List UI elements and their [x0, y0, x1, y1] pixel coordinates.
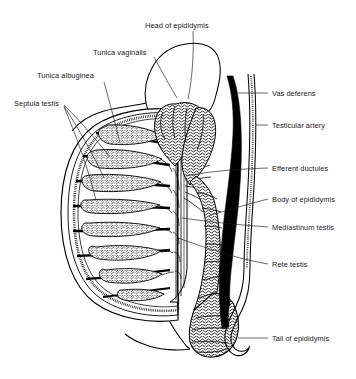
label-head-of-epididymis: Head of epididymis	[145, 21, 209, 30]
label-tunica-vaginalis: Tunica vaginalis	[93, 48, 147, 57]
label-body-of-epididymis: Body of epididymis	[272, 195, 335, 204]
label-mediastinum-testis: Mediastinum testis	[272, 223, 334, 232]
label-vas-deferens: Vas deferens	[272, 89, 316, 98]
label-rete-testis: Rete testis	[272, 260, 307, 269]
anatomy-illustration	[0, 0, 356, 379]
label-tunica-albuginea: Tunica albuginea	[37, 71, 94, 80]
label-septula-testis: Septula testis	[14, 99, 59, 108]
label-testicular-artery: Testicular artery	[272, 121, 325, 130]
label-efferent-ductules: Efferent ductules	[272, 164, 328, 173]
vas-deferens	[219, 76, 241, 328]
anatomy-diagram: Head of epididymis Tunica vaginalis Tuni…	[0, 0, 356, 379]
label-tail-of-epididymis: Tail of epididymis	[272, 334, 329, 343]
